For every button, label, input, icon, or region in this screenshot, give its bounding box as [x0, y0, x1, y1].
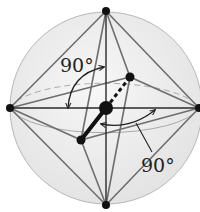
- atom-center: [99, 101, 113, 115]
- atom-bottom: [102, 201, 110, 209]
- atom-back: [126, 73, 135, 82]
- angle-label-lower: 90°: [141, 154, 175, 176]
- atom-left: [6, 104, 14, 112]
- octahedral-diagram: 90° 90°: [0, 0, 200, 212]
- atom-front: [77, 136, 86, 145]
- atom-top: [102, 7, 110, 15]
- angle-label-upper: 90°: [60, 54, 94, 76]
